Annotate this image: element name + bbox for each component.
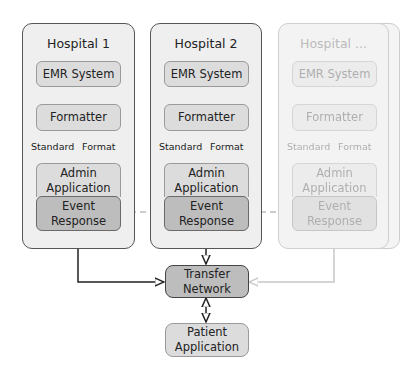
- hospital-n-event-response[interactable]: Event Response: [292, 196, 377, 231]
- hospital-1-formatter[interactable]: Formatter: [36, 104, 121, 131]
- hospital-1-emr-system[interactable]: EMR System: [36, 61, 121, 87]
- hospital-2-formatter[interactable]: Formatter: [164, 104, 249, 131]
- hospital-1-admin-application[interactable]: Admin Application: [36, 163, 121, 197]
- patient-application[interactable]: Patient Application: [165, 323, 249, 357]
- hospital-n-title: Hospital ...: [279, 36, 388, 51]
- transfer-network[interactable]: Transfer Network: [165, 265, 249, 298]
- hospital-2-title: Hospital 2: [151, 36, 261, 51]
- hospital-n-label-standard: Standard: [287, 141, 330, 152]
- hospital-1-title: Hospital 1: [23, 36, 134, 51]
- hospital-2-event-response[interactable]: Event Response: [164, 196, 249, 231]
- hospital-n-formatter[interactable]: Formatter: [292, 104, 377, 131]
- hospital-2-label-standard: Standard: [159, 141, 202, 152]
- hospital-n-emr-system[interactable]: EMR System: [292, 61, 377, 87]
- hospital-2-emr-system[interactable]: EMR System: [164, 61, 249, 87]
- hospital-1-label-standard: Standard: [31, 141, 74, 152]
- hospital-1-label-format: Format: [82, 141, 115, 152]
- hospital-1-event-response[interactable]: Event Response: [36, 196, 121, 231]
- hospital-2-label-format: Format: [210, 141, 243, 152]
- hospital-n-label-format: Format: [338, 141, 371, 152]
- hospital-n-admin-application[interactable]: Admin Application: [292, 163, 377, 197]
- hospital-2-admin-application[interactable]: Admin Application: [164, 163, 249, 197]
